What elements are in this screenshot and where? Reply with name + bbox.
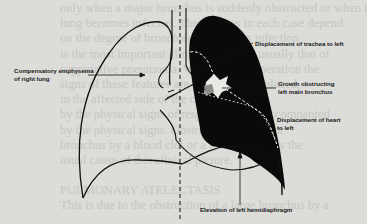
label-line: of right lung xyxy=(14,75,94,83)
right-lung-outline xyxy=(79,22,172,198)
right-hemidiaphragm xyxy=(83,160,182,198)
label-trachea-displacement: Displacement of trachea to left xyxy=(255,40,344,48)
label-line: Displacement of heart xyxy=(277,116,341,124)
label-heart-displacement: Displacement of heart to left xyxy=(277,116,341,131)
label-compensatory-emphysema: Compensatory emphysema of right lung xyxy=(14,67,94,82)
label-line: left main bronchus xyxy=(278,88,335,96)
label-line: Growth obstructing xyxy=(278,80,335,88)
label-line: Displacement of trachea to left xyxy=(255,40,344,48)
label-growth-obstructing: Growth obstructing left main bronchus xyxy=(278,80,335,95)
lung-collapse-diagram xyxy=(0,0,367,224)
label-line: Elevation of left hemidiaphragm xyxy=(200,206,292,214)
label-line: Compensatory emphysema xyxy=(14,67,94,75)
label-line: to left xyxy=(277,124,341,132)
heart-left-edge xyxy=(160,110,176,140)
label-hemidiaphragm-elevation: Elevation of left hemidiaphragm xyxy=(200,206,292,214)
